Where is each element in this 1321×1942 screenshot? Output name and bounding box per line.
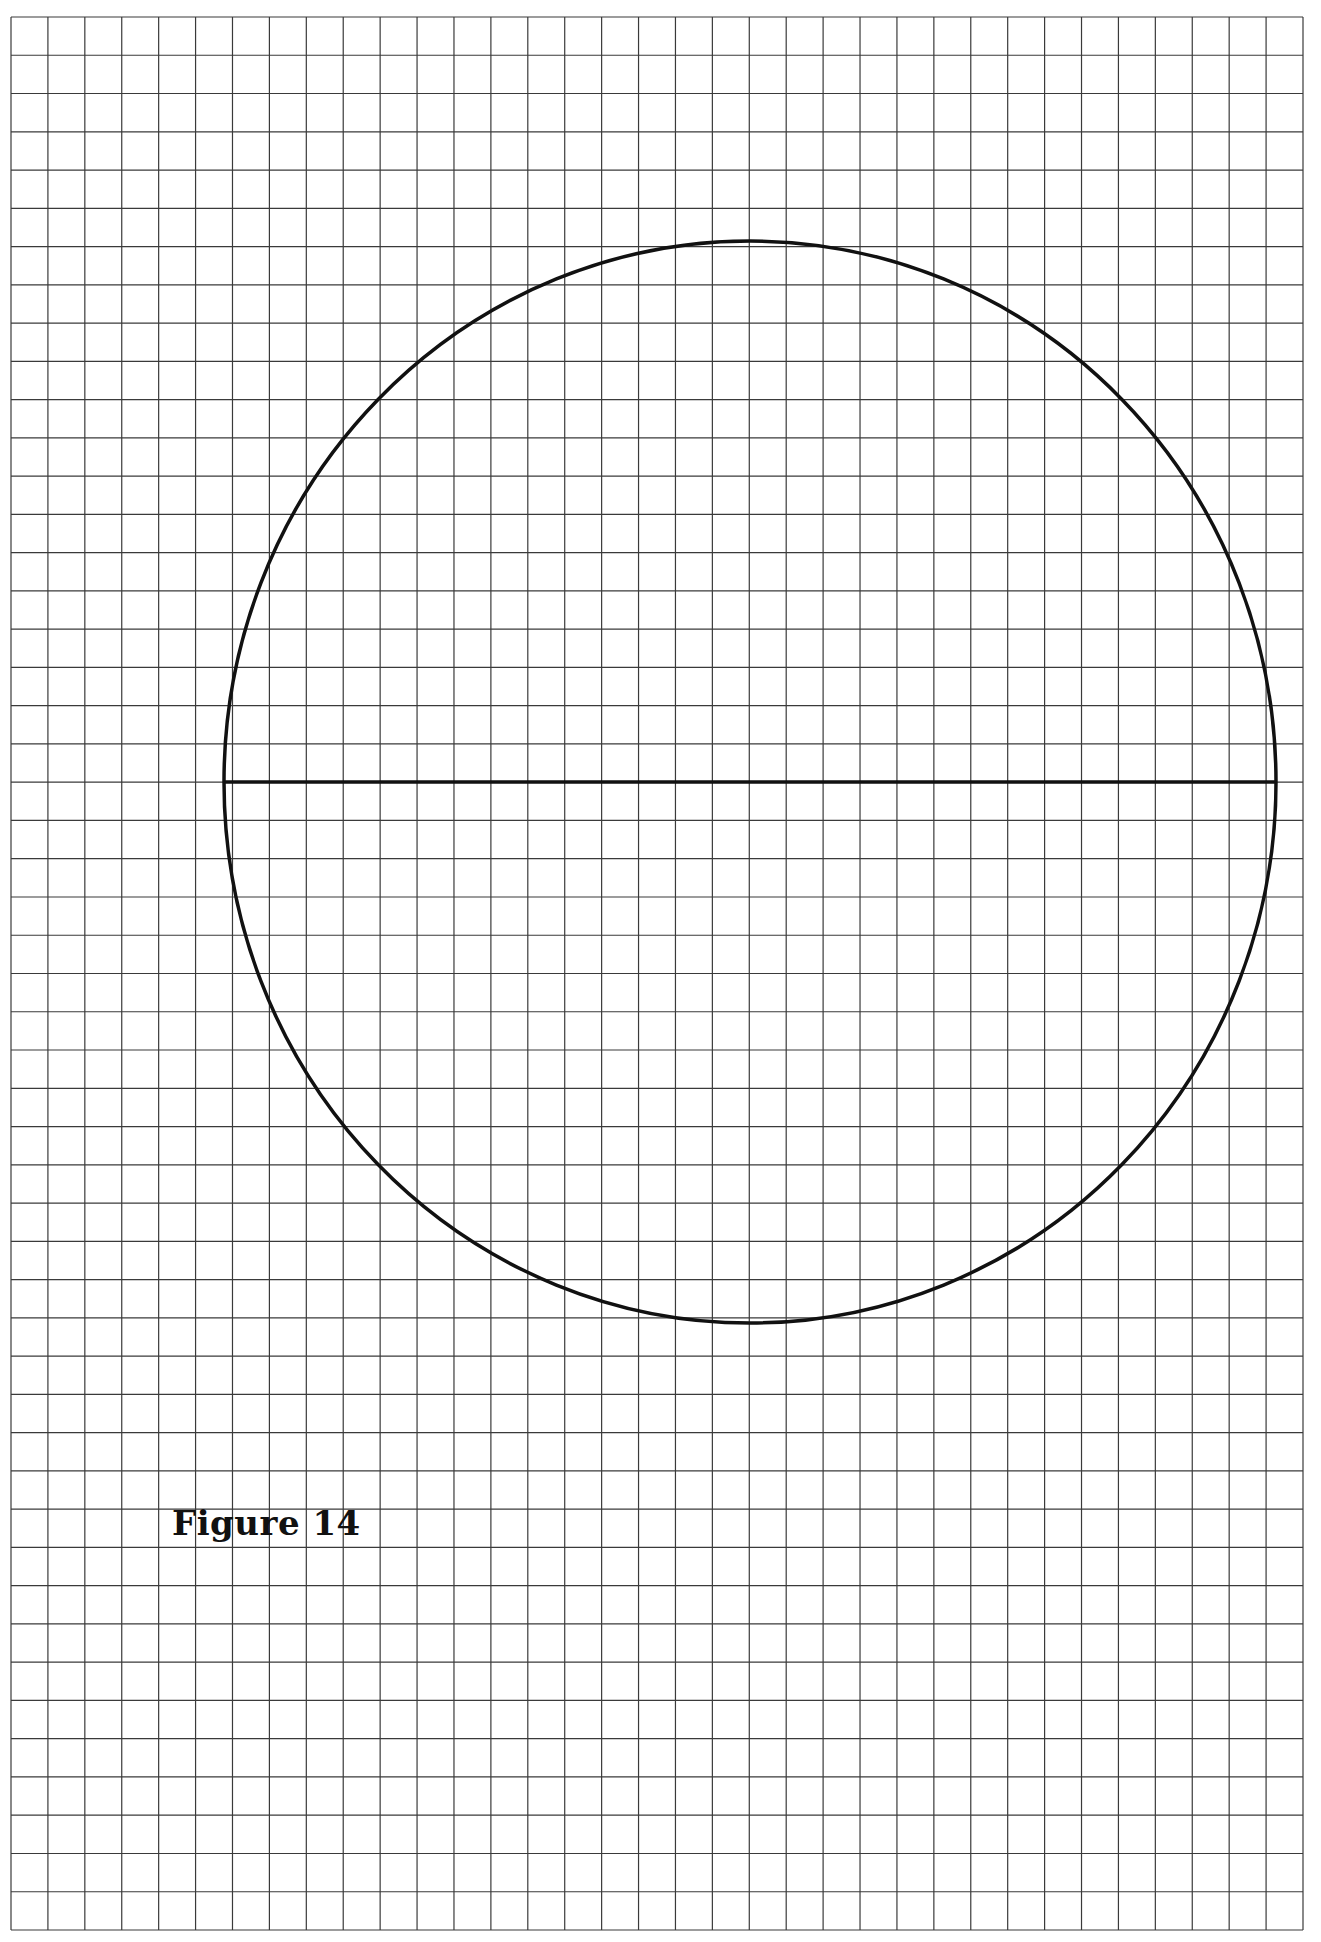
paper-background (0, 0, 1321, 1942)
figure-caption: Figure 14 (172, 1503, 361, 1543)
graph-paper-figure (0, 0, 1321, 1942)
